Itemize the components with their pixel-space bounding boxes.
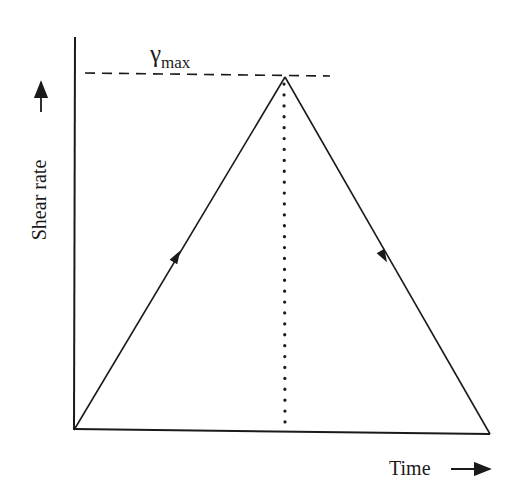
falling-ramp-line: [285, 77, 490, 434]
gamma-max-label: γmax: [149, 40, 191, 72]
gamma-subscript: max: [161, 53, 191, 72]
gamma-symbol: γ: [149, 40, 161, 67]
x-axis-label: Time: [389, 457, 431, 479]
gamma-max-dashed-line: [85, 73, 330, 76]
y-axis: [74, 37, 75, 430]
y-axis-label: Shear rate: [28, 160, 50, 241]
peak-dotted-line: [284, 84, 285, 426]
shear-rate-diagram: γmax Shear rate Time: [0, 0, 517, 500]
x-axis: [74, 429, 490, 434]
